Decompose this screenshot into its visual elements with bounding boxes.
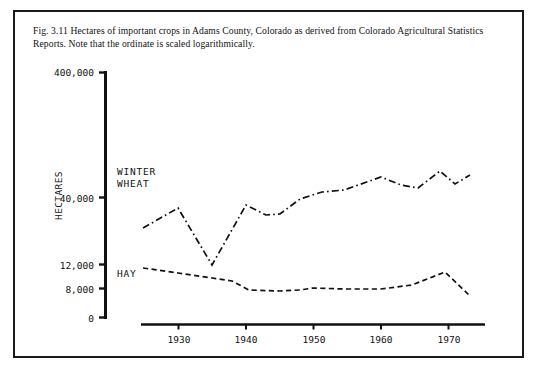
x-tick-label-1960: 1960 [370,334,393,345]
x-tick-label-1940: 1940 [235,334,258,345]
x-tick-label-1930: 1930 [168,334,191,345]
series-label-hay: HAY [117,268,137,280]
x-tick-label-1970: 1970 [438,334,461,345]
y-tick-label-0: 0 [18,313,94,324]
y-axis-title: HECTARES [53,164,64,228]
series-line-hay [143,268,470,296]
figure-page: Fig. 3.11 Hectares of important crops in… [0,0,544,371]
y-tick-label-400000: 400,000 [18,67,94,78]
y-tick-label-12000: 12,000 [18,260,94,271]
x-tick-label-1950: 1950 [303,334,326,345]
series-label-winter-wheat: WINTER WHEAT [117,166,156,189]
y-tick-label-8000: 8,000 [18,284,94,295]
series-line-winter-wheat [143,171,470,265]
